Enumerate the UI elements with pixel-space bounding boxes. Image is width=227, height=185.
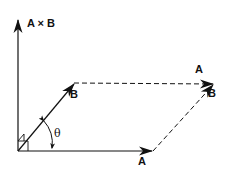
translated-vector-a	[74, 83, 213, 84]
vector-b-label: B	[70, 88, 78, 100]
translated-a-label: A	[195, 63, 203, 75]
vector-a-label: A	[138, 155, 146, 167]
angle-theta-arc	[44, 121, 53, 149]
angle-theta-label: θ	[54, 127, 61, 140]
cross-product-diagram: A × B A B A B θ	[0, 0, 227, 185]
translated-b-label: B	[208, 87, 216, 99]
cross-product-label: A × B	[27, 17, 55, 29]
translated-vector-b	[153, 85, 213, 151]
